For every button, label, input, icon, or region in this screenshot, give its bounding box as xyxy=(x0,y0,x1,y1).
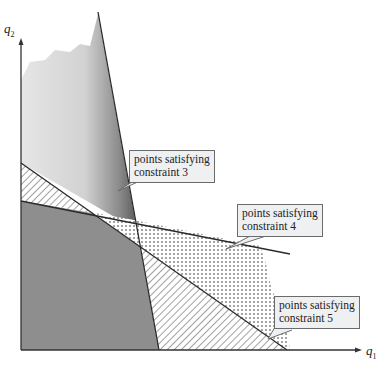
callout-constraint-3: points satisfying constraint 3 xyxy=(129,150,215,183)
x-axis-label: q1 xyxy=(366,343,377,361)
y-axis-arrow-icon xyxy=(19,38,24,45)
x-axis-arrow-icon xyxy=(355,348,362,353)
y-axis-label: q2 xyxy=(4,21,15,39)
callout-constraint-5: points satisfying constraint 5 xyxy=(274,296,360,329)
callout-constraint-4: points satisfying constraint 4 xyxy=(237,204,323,237)
